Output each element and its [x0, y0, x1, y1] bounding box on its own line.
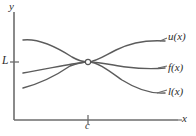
- squeeze-theorem-figure: y x L c u(x) f(x) l(x): [0, 0, 196, 136]
- curve-label-u: u(x): [168, 31, 186, 42]
- x-tick-label-c: c: [85, 121, 90, 132]
- curve-label-f: f(x): [168, 62, 183, 73]
- x-axis-label: x: [182, 113, 187, 124]
- curve-lower-l: [23, 62, 165, 93]
- figure-canvas: [0, 0, 196, 136]
- curve-upper-u: [23, 40, 165, 62]
- y-tick-label-L: L: [2, 55, 8, 67]
- y-axis-label: y: [9, 1, 14, 12]
- curve-label-l: l(x): [168, 86, 183, 97]
- limit-point-open-circle: [85, 59, 90, 64]
